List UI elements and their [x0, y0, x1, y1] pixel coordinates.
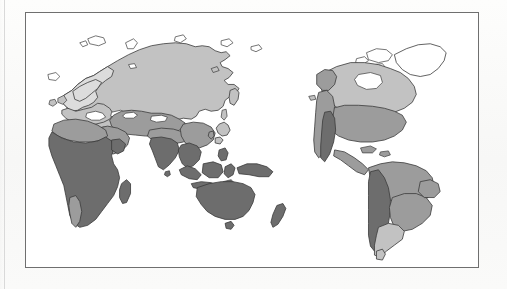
region-borneo: [202, 162, 223, 178]
page-gutter-rule: [4, 0, 5, 289]
world-map-graphic: .land { stroke:#3a3a3a; stroke-width:0.8…: [26, 13, 478, 267]
figure-page: .land { stroke:#3a3a3a; stroke-width:0.8…: [0, 0, 507, 289]
region-philippines: [218, 148, 228, 161]
map-figure-frame: .land { stroke:#3a3a3a; stroke-width:0.8…: [25, 12, 479, 268]
region-central-asia-white-patch: [150, 115, 167, 122]
